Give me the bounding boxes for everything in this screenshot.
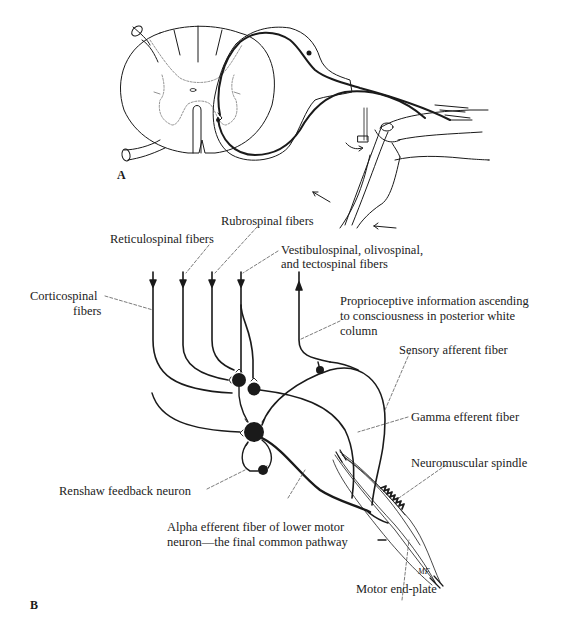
figure-canvas: A B Rubrospinal fibers Reticulospinal fi… [0, 0, 572, 620]
knee-leg [313, 108, 490, 229]
label-proprioceptive-line1: Proprioceptive information ascending [340, 294, 529, 308]
label-neuromuscular-spindle: Neuromuscular spindle [411, 456, 527, 470]
label-sensory-afferent: Sensory afferent fiber [399, 343, 508, 357]
interneuron-1 [232, 373, 246, 387]
label-vestibulospinal-line1: Vestibulospinal, olivospinal, [281, 243, 423, 257]
label-alpha-efferent-line2: neuron—the final common pathway [167, 535, 348, 549]
reflex-arc-nerve [213, 27, 472, 160]
label-motor-end-plate: Motor end-plate [356, 582, 437, 596]
panel-label-a: A [117, 168, 126, 183]
artist-initials: MF [418, 565, 430, 579]
label-proprioceptive-line3: column [340, 324, 378, 338]
label-gamma-efferent: Gamma efferent fiber [411, 410, 519, 424]
label-corticospinal-line2: fibers [73, 304, 101, 318]
label-vestibulospinal-line2: and tectospinal fibers [281, 257, 388, 271]
label-rubrospinal: Rubrospinal fibers [221, 214, 314, 228]
spinal-cord-section [120, 24, 274, 162]
panel-label-b: B [30, 598, 38, 613]
label-corticospinal-line1: Corticospinal [30, 289, 97, 303]
label-reticulospinal: Reticulospinal fibers [110, 232, 214, 246]
label-proprioceptive-line2: to consciousness in posterior white [340, 309, 515, 323]
alpha-motor-neuron [244, 422, 264, 442]
interneuron-2 [248, 383, 261, 396]
label-renshaw: Renshaw feedback neuron [59, 484, 191, 498]
label-alpha-efferent-line1: Alpha efferent fiber of lower motor [167, 520, 344, 534]
ascending-tract [296, 272, 330, 362]
